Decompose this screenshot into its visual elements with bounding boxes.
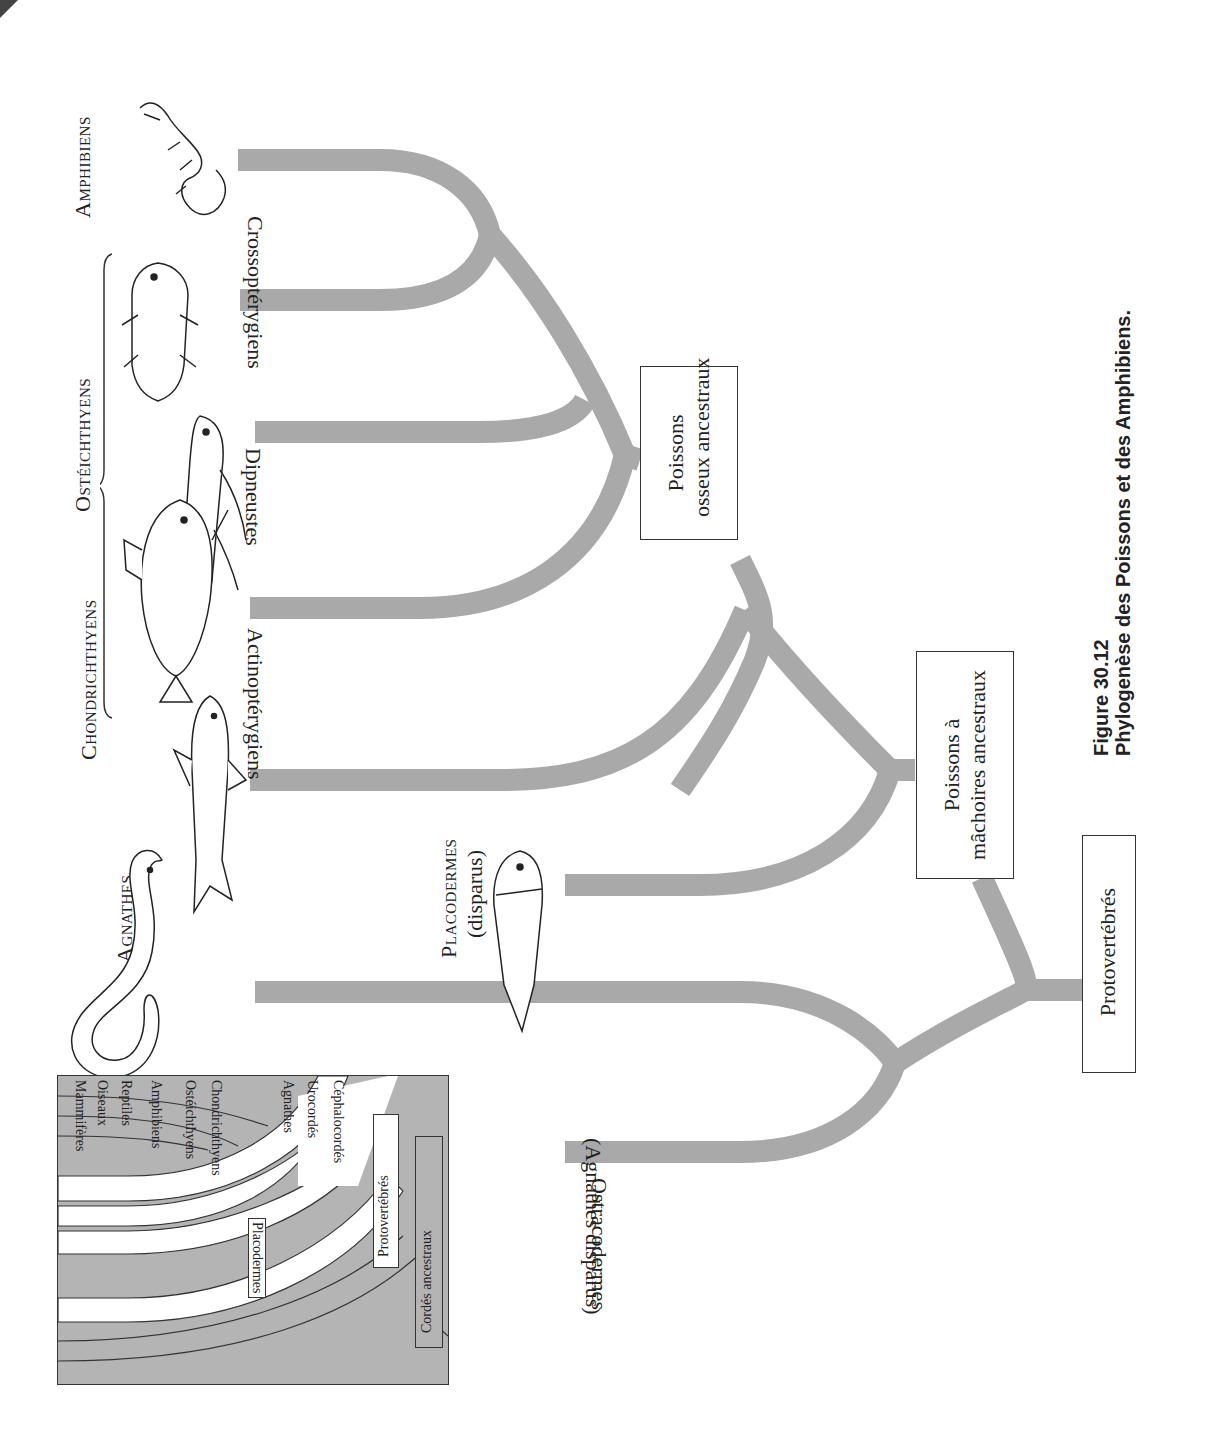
figure-caption: Figure 30.12 Phylogenèse des Poissons et… <box>1090 310 1134 756</box>
node-box-poissons-machoires: Poissons à mâchoires ancestraux <box>916 651 1014 879</box>
branch-crossopterygiens <box>240 235 490 300</box>
inset-box-protovertebres: Protovertébrés <box>373 1114 399 1268</box>
branch-agnathan-stem <box>895 990 1025 1063</box>
group-label-placodermes: Placodermes <box>436 839 462 958</box>
branch-agnathes <box>255 992 895 1063</box>
branch-amphibiens <box>238 160 490 235</box>
inset-leaf-chondrichthyens: Chondrichthyens <box>208 1080 224 1176</box>
branch-ostracodermes <box>565 1063 895 1152</box>
figure-number: Figure 30.12 <box>1090 310 1112 756</box>
inset-leaf-mammiferes: Mammifères <box>72 1080 88 1152</box>
inset-leaf-urocordes: Urocordés <box>304 1080 320 1138</box>
group-label-chondrichthyens: Chondrichthyens <box>76 599 102 760</box>
shark-illustration <box>170 690 250 920</box>
node-poissons-machoires-line1: Poissons à <box>939 670 965 860</box>
node-poissons-machoires-line2: mâchoires ancestraux <box>965 670 991 860</box>
inset-vertebrate-tree: Mammifères Oiseaux Reptiles Amphibiens O… <box>57 1075 449 1385</box>
figure-title: Phylogenèse des Poissons et des Amphibie… <box>1112 310 1134 756</box>
inset-leaf-cephalocordes: Céphalocordés <box>330 1080 346 1163</box>
branch-placodermes <box>565 770 890 885</box>
group-label-amphibiens: Amphibiens <box>70 116 96 218</box>
inset-leaf-oiseaux: Oiseaux <box>94 1080 110 1126</box>
branch-actinopterygiens <box>250 455 625 608</box>
inset-leaf-placodermes: Placodermes <box>248 1218 266 1298</box>
inset-leaf-osteichthyens: Ostéichthyens <box>182 1080 198 1159</box>
group-label-osteichthyens: Ostéichthyens <box>70 378 96 512</box>
branch-gnathostomes-stem <box>982 878 1026 990</box>
node-protovertebres: Protovertébrés <box>1095 872 1121 1032</box>
coelacanth-illustration <box>118 255 208 405</box>
placoderm-illustration <box>480 845 550 1035</box>
branch-osteichthyes-stem <box>625 455 640 460</box>
node-box-protovertebres: Protovertébrés <box>1082 835 1136 1073</box>
inset-box-cordes-ancestraux: Cordés ancestraux <box>415 1136 443 1348</box>
node-poissons-osseux-line2: osseux ancestraux <box>689 389 715 517</box>
branch-label-crossopterygiens: Crossoptérygiens <box>242 216 268 369</box>
branch-label-ostracodermes: Ostracodermes <box>586 1178 612 1310</box>
perch-illustration <box>120 480 230 710</box>
branch-dipneustes <box>255 400 585 432</box>
branch-chondrichthyens <box>250 610 745 780</box>
inset-leaf-reptiles: Reptiles <box>118 1080 134 1126</box>
salamander-illustration <box>120 90 230 240</box>
node-poissons-osseux-line1: Poissons <box>663 389 689 517</box>
inset-leaf-amphibiens: Amphibiens <box>148 1080 164 1148</box>
inset-leaf-agnathes: Agnathes <box>280 1080 296 1133</box>
lamprey-illustration <box>58 840 178 1100</box>
branch-chondri-node <box>745 610 890 770</box>
node-box-poissons-osseux: Poissons osseux ancestraux <box>640 366 738 540</box>
